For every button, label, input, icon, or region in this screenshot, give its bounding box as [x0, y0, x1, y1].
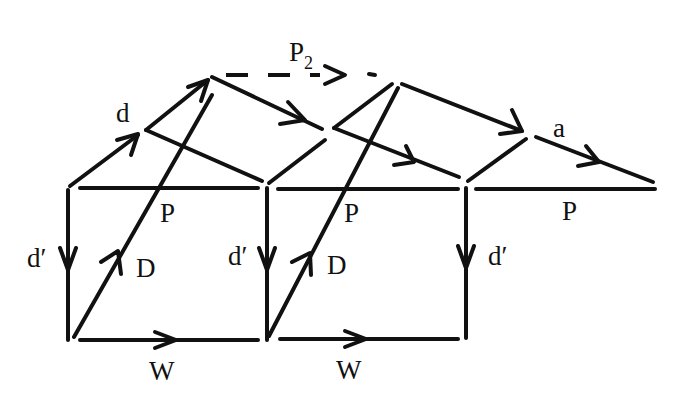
label-P-mid: P: [344, 200, 359, 227]
label-W-left: W: [149, 358, 174, 385]
edge-rpeak-left: [334, 84, 392, 128]
label-P-left: P: [160, 200, 175, 227]
label-P2-base: P: [289, 37, 304, 67]
dash-tick: [369, 74, 375, 75]
edge-up-mid: [269, 140, 325, 183]
edge-D-mid: [269, 88, 398, 336]
label-dprime-left: d′: [27, 245, 46, 272]
label-P2-sub: 2: [304, 53, 313, 73]
edge-up-right: [468, 139, 526, 181]
edge-d-2: [146, 80, 208, 130]
edge-rpeak-right: [402, 84, 522, 131]
label-dprime-right: d′: [488, 243, 507, 270]
edge-node2-down: [334, 128, 459, 177]
edge-D-left: [74, 95, 212, 337]
label-a: a: [553, 115, 565, 142]
label-W-mid: W: [336, 357, 361, 384]
label-d: d: [116, 100, 130, 127]
edge-node-down-left: [146, 130, 262, 181]
label-dprime-mid: d′: [228, 243, 247, 270]
label-P2: P2: [289, 39, 313, 66]
edge-d-1: [70, 135, 138, 186]
label-P-right: P: [562, 198, 577, 225]
label-D-mid: D: [327, 252, 347, 279]
arrowhead-P2-icon: [325, 66, 345, 84]
label-D-left: D: [136, 255, 156, 282]
